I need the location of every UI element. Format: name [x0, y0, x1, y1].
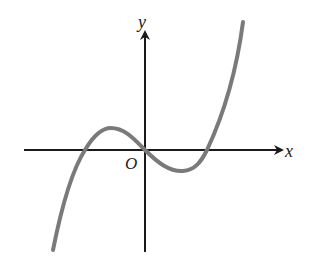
x-axis-label: x [284, 141, 293, 161]
cubic-curve [53, 22, 243, 250]
origin-label: O [125, 154, 137, 173]
y-axis-label: y [136, 12, 146, 32]
cubic-graph: y x O [0, 0, 311, 261]
